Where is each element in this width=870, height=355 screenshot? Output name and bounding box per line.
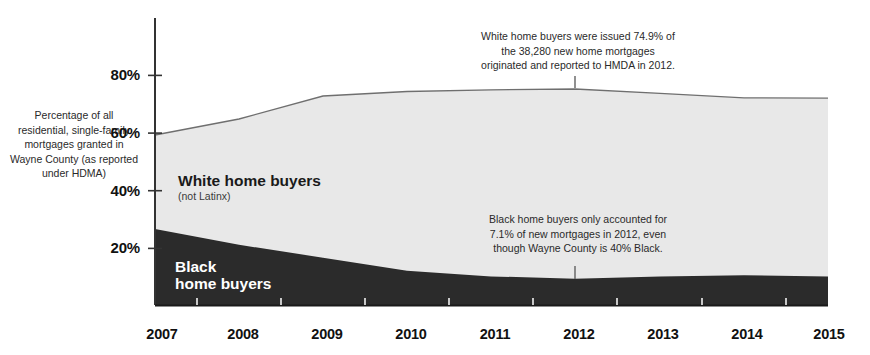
series-label-white-sub: (not Latinx) — [178, 190, 321, 203]
x-tick-label-2009: 2009 — [292, 326, 362, 342]
x-tick-label-2008: 2008 — [208, 326, 278, 342]
y-tick-label-80: 80% — [78, 66, 140, 83]
series-label-black-home-buyers: Black home buyers — [175, 258, 271, 292]
series-label-black-line2: home buyers — [175, 275, 271, 292]
y-tick-label-40: 40% — [78, 182, 140, 199]
annotation-black-home-buyers: Black home buyers only accounted for 7.1… — [480, 212, 676, 256]
y-axis-caption: Percentage of all residential, single-fa… — [8, 108, 140, 181]
series-label-white-main: White home buyers — [178, 172, 321, 190]
y-tick-label-20: 20% — [78, 239, 140, 256]
x-tick-label-2014: 2014 — [712, 326, 782, 342]
x-tick-label-2010: 2010 — [376, 326, 446, 342]
x-tick-label-2011: 2011 — [460, 326, 530, 342]
x-tick-label-2013: 2013 — [628, 326, 698, 342]
stacked-area-chart: Percentage of all residential, single-fa… — [0, 0, 870, 355]
y-tick-label-60: 60% — [78, 124, 140, 141]
x-tick-label-2012: 2012 — [544, 326, 614, 342]
series-label-black-line1: Black — [175, 258, 271, 275]
x-tick-label-2015: 2015 — [794, 326, 864, 342]
x-tick-label-2007: 2007 — [127, 326, 197, 342]
annotation-white-home-buyers: White home buyers were issued 74.9% of t… — [478, 29, 678, 73]
series-label-white-home-buyers: White home buyers (not Latinx) — [178, 172, 321, 203]
